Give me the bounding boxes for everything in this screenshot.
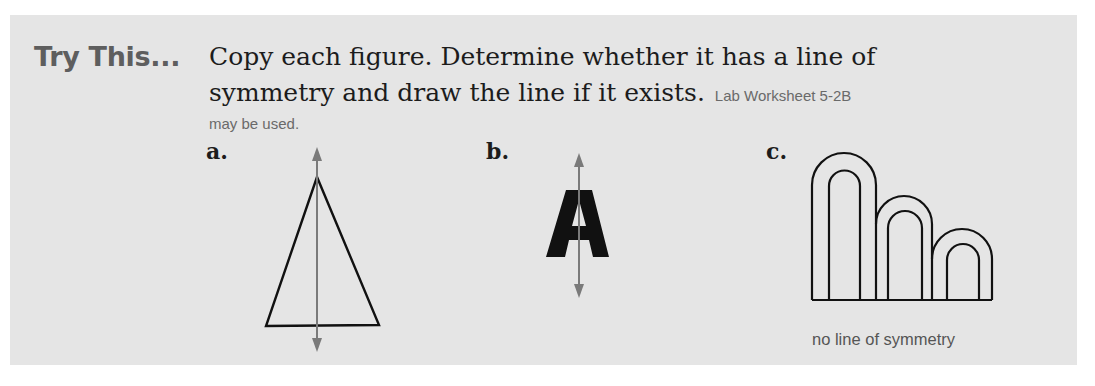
figure-c-arches	[812, 153, 992, 300]
figure-b-symmetry-line-icon	[574, 153, 584, 298]
figure-a-symmetry-line-icon	[312, 147, 322, 352]
figure-a-triangle	[266, 177, 379, 326]
figures-canvas	[0, 0, 1095, 386]
figure-b-letter-a	[546, 190, 609, 257]
